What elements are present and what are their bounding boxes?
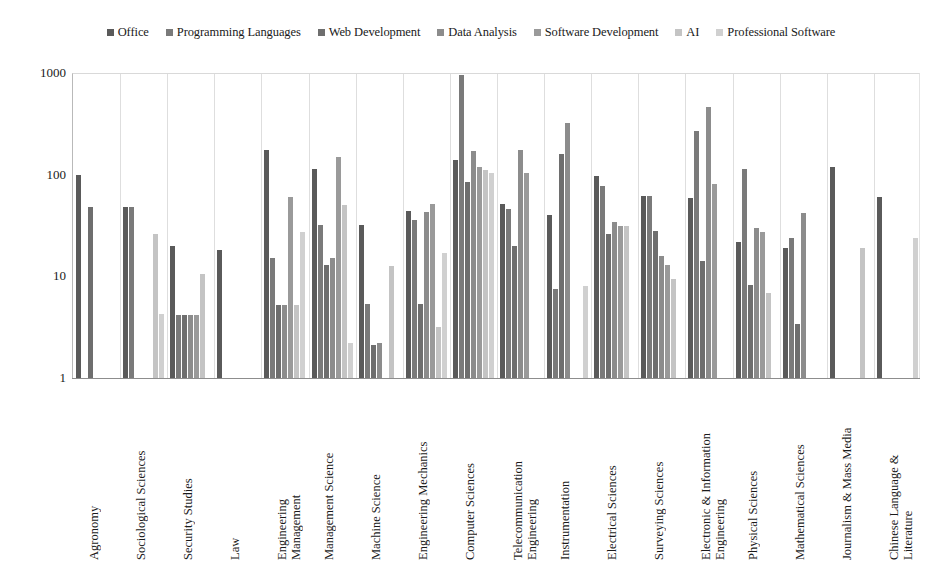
bar[interactable] — [830, 167, 835, 378]
bar[interactable] — [553, 289, 558, 378]
bar[interactable] — [348, 343, 353, 378]
bar[interactable] — [653, 231, 658, 378]
bar[interactable] — [565, 123, 570, 378]
bar-chart: OfficeProgramming LanguagesWeb Developme… — [0, 0, 942, 567]
bar[interactable] — [559, 154, 564, 378]
bar[interactable] — [465, 182, 470, 378]
bar[interactable] — [471, 151, 476, 378]
bar[interactable] — [129, 207, 134, 378]
bar[interactable] — [412, 220, 417, 378]
bar[interactable] — [801, 213, 806, 378]
bar-group — [733, 74, 780, 378]
bar[interactable] — [276, 305, 281, 378]
bar[interactable] — [742, 169, 747, 379]
bar[interactable] — [342, 205, 347, 378]
bar[interactable] — [594, 176, 599, 378]
bar[interactable] — [600, 186, 605, 378]
bar[interactable] — [659, 256, 664, 378]
bar[interactable] — [736, 242, 741, 378]
bar[interactable] — [365, 304, 370, 378]
bar[interactable] — [436, 327, 441, 378]
bar[interactable] — [159, 314, 164, 378]
bar[interactable] — [430, 204, 435, 378]
bar[interactable] — [754, 228, 759, 378]
bar[interactable] — [359, 225, 364, 378]
bar[interactable] — [489, 173, 494, 378]
bar[interactable] — [547, 215, 552, 378]
bar[interactable] — [324, 265, 329, 378]
legend-item[interactable]: Web Development — [318, 26, 421, 39]
bar[interactable] — [459, 75, 464, 378]
group-separator-gridline — [450, 74, 451, 378]
bar[interactable] — [294, 305, 299, 378]
bar[interactable] — [665, 265, 670, 378]
bar[interactable] — [377, 343, 382, 378]
bar[interactable] — [153, 234, 158, 378]
bar[interactable] — [264, 150, 269, 378]
bar[interactable] — [789, 238, 794, 378]
bar[interactable] — [300, 232, 305, 378]
bar[interactable] — [783, 248, 788, 378]
bar[interactable] — [694, 131, 699, 378]
bar[interactable] — [506, 209, 511, 378]
bar[interactable] — [76, 175, 81, 378]
bar[interactable] — [795, 324, 800, 378]
bar[interactable] — [647, 196, 652, 378]
bar[interactable] — [760, 232, 765, 378]
bar[interactable] — [612, 222, 617, 378]
bar[interactable] — [618, 226, 623, 378]
bar[interactable] — [406, 211, 411, 378]
bar[interactable] — [688, 198, 693, 378]
legend-swatch-icon — [437, 29, 444, 36]
bar[interactable] — [270, 258, 275, 378]
bar[interactable] — [700, 261, 705, 378]
bar[interactable] — [606, 234, 611, 378]
bar[interactable] — [336, 157, 341, 378]
bar[interactable] — [524, 173, 529, 378]
bar[interactable] — [188, 315, 193, 378]
bar[interactable] — [217, 250, 222, 378]
legend-item[interactable]: AI — [675, 26, 699, 39]
bar-group — [309, 74, 356, 378]
legend-item[interactable]: Data Analysis — [437, 26, 516, 39]
bar[interactable] — [312, 169, 317, 379]
bar[interactable] — [641, 196, 646, 378]
bar[interactable] — [176, 315, 181, 378]
bar[interactable] — [860, 248, 865, 378]
bar[interactable] — [624, 226, 629, 378]
bar[interactable] — [442, 253, 447, 378]
bar[interactable] — [200, 274, 205, 378]
bar[interactable] — [877, 197, 882, 378]
bar[interactable] — [424, 212, 429, 378]
bar[interactable] — [706, 107, 711, 378]
bar[interactable] — [500, 204, 505, 378]
bar[interactable] — [518, 150, 523, 378]
bar[interactable] — [913, 238, 918, 378]
group-separator-gridline — [733, 74, 734, 378]
bar[interactable] — [512, 246, 517, 378]
legend-item[interactable]: Professional Software — [716, 26, 835, 39]
bar[interactable] — [477, 167, 482, 378]
bar[interactable] — [453, 160, 458, 378]
bar[interactable] — [88, 207, 93, 378]
bar[interactable] — [282, 305, 287, 378]
bar[interactable] — [418, 304, 423, 378]
bar[interactable] — [123, 207, 128, 378]
bar[interactable] — [389, 266, 394, 378]
bar[interactable] — [483, 170, 488, 378]
bar[interactable] — [766, 293, 771, 378]
bar[interactable] — [182, 315, 187, 378]
legend-item[interactable]: Software Development — [534, 26, 659, 39]
bar[interactable] — [288, 197, 293, 378]
legend-item[interactable]: Programming Languages — [166, 26, 301, 39]
bar[interactable] — [671, 279, 676, 378]
bar[interactable] — [748, 285, 753, 378]
bar[interactable] — [194, 315, 199, 378]
bar[interactable] — [583, 286, 588, 378]
bar[interactable] — [712, 184, 717, 378]
legend-item[interactable]: Office — [107, 26, 149, 39]
bar[interactable] — [170, 246, 175, 378]
bar[interactable] — [318, 225, 323, 378]
bar[interactable] — [330, 258, 335, 378]
bar[interactable] — [371, 345, 376, 378]
